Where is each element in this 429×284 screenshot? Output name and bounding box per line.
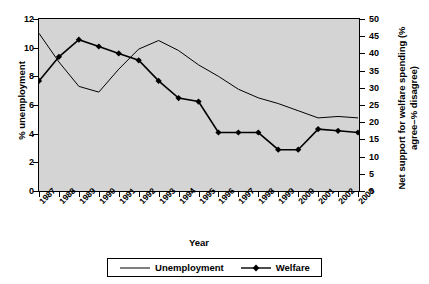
right-tickmark <box>360 122 365 123</box>
right-tickmark <box>360 157 365 158</box>
right-tick-label: 45 <box>369 32 379 41</box>
chart-container: 024681012 05101520253035404550 198719881… <box>0 0 429 284</box>
diamond-marker-icon <box>240 263 272 273</box>
series-lines <box>39 19 359 191</box>
clipped-title <box>0 0 429 6</box>
data-point-marker <box>96 43 102 49</box>
right-tick-label: 15 <box>369 135 379 144</box>
series-line-unemployment <box>39 33 358 118</box>
chart-legend: Unemployment Welfare <box>107 258 322 277</box>
data-point-marker <box>335 128 341 134</box>
data-point-marker <box>235 129 241 135</box>
right-tickmark <box>360 71 365 72</box>
right-tick-label: 50 <box>369 15 379 24</box>
right-tickmark <box>360 36 365 37</box>
right-tick-label: 25 <box>369 101 379 110</box>
legend-item-welfare[interactable]: Welfare <box>240 263 310 273</box>
left-tick-label: 4 <box>29 129 34 138</box>
right-tick-label: 30 <box>369 83 379 92</box>
right-axis-title: Net support for welfare spending (% agre… <box>396 18 420 198</box>
left-axis-title: % unemployment <box>16 26 27 176</box>
right-tickmark <box>360 105 365 106</box>
left-tick-label: 6 <box>29 101 34 110</box>
x-axis-title: Year <box>0 237 398 248</box>
right-tick-label: 40 <box>369 49 379 58</box>
right-tickmark <box>360 19 365 20</box>
right-tickmark <box>360 53 365 54</box>
plot-area <box>38 18 360 192</box>
legend-label-welfare: Welfare <box>276 263 310 273</box>
series-line-welfare <box>39 40 358 150</box>
legend-label-unemployment: Unemployment <box>155 263 224 273</box>
right-tick-label: 5 <box>369 169 374 178</box>
right-tick-label: 35 <box>369 66 379 75</box>
data-point-marker <box>116 50 122 56</box>
data-point-marker <box>355 129 359 135</box>
right-tick-label: 20 <box>369 118 379 127</box>
line-swatch-icon <box>119 263 151 273</box>
left-tick-label: 12 <box>24 15 34 24</box>
right-tickmark <box>360 174 365 175</box>
left-tick-label: 2 <box>29 158 34 167</box>
right-tick-label: 10 <box>369 152 379 161</box>
legend-item-unemployment[interactable]: Unemployment <box>119 263 224 273</box>
left-tick-label: 0 <box>29 187 34 196</box>
right-tickmark <box>360 88 365 89</box>
right-tickmark <box>360 139 365 140</box>
left-tick-label: 8 <box>29 72 34 81</box>
